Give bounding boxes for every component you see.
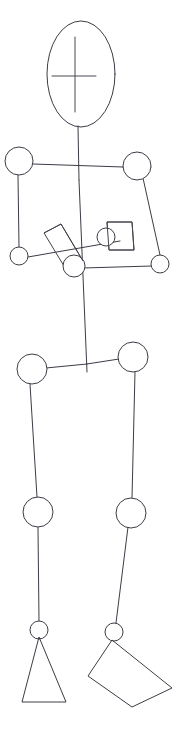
elbow-left-joint bbox=[10, 247, 28, 265]
shoulder-right-joint bbox=[123, 152, 151, 180]
knee-left-joint bbox=[23, 497, 53, 527]
knee-right-joint bbox=[116, 498, 146, 528]
stick-figure-drawing bbox=[0, 0, 187, 744]
hand-right-joint bbox=[97, 228, 115, 246]
ankle-left-joint bbox=[30, 621, 48, 639]
elbow-right-joint bbox=[151, 255, 169, 273]
hip-left-joint bbox=[17, 354, 47, 384]
hip-right-joint bbox=[118, 342, 148, 372]
shoulder-left-joint bbox=[5, 147, 33, 175]
ankle-right-joint bbox=[105, 623, 123, 641]
